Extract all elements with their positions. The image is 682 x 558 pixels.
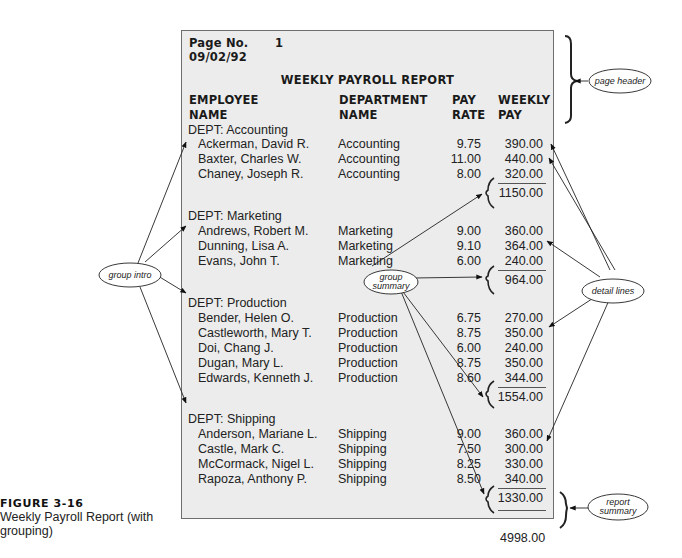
employee-name: Bender, Helen O. [198,311,294,325]
group-summary: 1150.00 [499,186,543,200]
figure-description: Weekly Payroll Report (with grouping) [0,510,175,538]
pay-rate: 6.75 [457,311,481,325]
col-pay-rate-1: PAY [452,93,476,107]
group-intro-row: DEPT: Shipping [182,412,553,427]
weekly-pay: 344.00 [505,371,543,385]
detail-row: Andrews, Robert M. Marketing 9.00 360.00 [182,224,553,239]
report-total: 4998.00 [500,531,545,545]
group-summary: 1330.00 [498,491,543,505]
department-name: Marketing [338,254,393,268]
department-name: Production [338,326,398,340]
employee-name: Castleworth, Mary T. [198,326,312,340]
employee-name: McCormack, Nigel L. [198,457,314,471]
pay-rate: 8.50 [457,472,481,486]
group-summary: 1554.00 [498,390,543,404]
group-intro-label: group intro [99,271,161,280]
weekly-pay: 440.00 [505,152,543,166]
employee-name: Ackerman, David R. [198,137,309,151]
page-header-brace [565,36,577,123]
pay-rate: 6.00 [457,254,481,268]
department-name: Production [338,356,398,370]
group-intro-row: DEPT: Marketing [182,209,553,224]
weekly-pay: 350.00 [505,356,543,370]
detail-row: Castleworth, Mary T. Production 8.75 350… [182,326,553,341]
department-name: Shipping [338,472,387,486]
group-intro: DEPT: Shipping [188,412,276,426]
weekly-pay: 340.00 [505,472,543,486]
group-intro: DEPT: Accounting [188,123,288,137]
summary-rule [498,183,546,184]
employee-name: Dunning, Lisa A. [198,239,289,253]
detail-row: Edwards, Kenneth J. Production 8.60 344.… [182,371,553,386]
pay-rate: 8.00 [457,167,481,181]
pay-rate: 6.00 [457,341,481,355]
page-number-label: Page No. [189,36,248,50]
summary-rule [498,387,546,388]
employee-name: Castle, Mark C. [198,442,284,456]
detail-row: Castle, Mark C. Shipping 7.50 300.00 [182,442,553,457]
col-department-name-2: NAME [339,108,378,122]
department-name: Production [338,341,398,355]
group-intro: DEPT: Marketing [188,209,282,223]
employee-name: Evans, John T. [198,254,280,268]
col-weekly-pay-2: PAY [498,108,522,122]
group-intro-row: DEPT: Production [182,296,553,311]
pay-rate: 11.00 [451,152,481,166]
group-summary: 964.00 [505,273,543,287]
weekly-pay: 240.00 [505,341,543,355]
department-name: Marketing [338,224,393,238]
col-weekly-pay-1: WEEKLY [498,93,550,107]
department-name: Shipping [338,457,387,471]
group-intro-row: DEPT: Accounting [182,123,553,138]
report-summary-label-2: summary [588,507,648,516]
figure-caption: FIGURE 3-16 Weekly Payroll Report (with … [0,497,175,538]
col-employee-name-2: NAME [189,108,228,122]
summary-rule [498,488,546,489]
weekly-pay: 270.00 [505,311,543,325]
weekly-pay: 350.00 [505,326,543,340]
report-summary-brace [560,492,567,528]
employee-name: Andrews, Robert M. [198,224,308,238]
employee-name: Baxter, Charles W. [198,152,302,166]
detail-row: Ackerman, David R. Accounting 9.75 390.0… [182,137,553,152]
detail-row: Doi, Chang J. Production 6.00 240.00 [182,341,553,356]
report-title: WEEKLY PAYROLL REPORT [182,73,553,87]
detail-row: Baxter, Charles W. Accounting 11.00 440.… [182,152,553,167]
detail-row: McCormack, Nigel L. Shipping 8.25 330.00 [182,457,553,472]
weekly-pay: 360.00 [505,224,543,238]
pay-rate: 9.10 [457,239,481,253]
employee-name: Chaney, Joseph R. [198,167,303,181]
department-name: Production [338,371,398,385]
figure-number: FIGURE 3-16 [0,497,175,510]
department-name: Accounting [338,152,400,166]
pay-rate: 8.25 [457,457,481,471]
department-name: Production [338,311,398,325]
detail-lines-label: detail lines [582,287,644,296]
pay-rate: 8.60 [457,371,481,385]
detail-row: Anderson, Mariane L. Shipping 9.00 360.0… [182,427,553,442]
group-intro: DEPT: Production [188,296,287,310]
weekly-pay: 320.00 [505,167,543,181]
weekly-pay: 330.00 [505,457,543,471]
detail-row: Chaney, Joseph R. Accounting 8.00 320.00 [182,167,553,182]
department-name: Accounting [338,167,400,181]
summary-rule [498,510,546,511]
employee-name: Edwards, Kenneth J. [198,371,313,385]
col-employee-name-1: EMPLOYEE [189,93,259,107]
detail-row: Bender, Helen O. Production 6.75 270.00 [182,311,553,326]
employee-name: Doi, Chang J. [198,341,274,355]
group-summary-label-2: summary [364,282,418,291]
detail-row: Dunning, Lisa A. Marketing 9.10 364.00 [182,239,553,254]
pay-rate: 7.50 [457,442,481,456]
weekly-pay: 390.00 [505,137,543,151]
summary-rule [498,270,546,271]
pay-rate: 9.00 [457,224,481,238]
employee-name: Rapoza, Anthony P. [198,472,307,486]
pay-rate: 8.75 [457,356,481,370]
page-number: 1 [275,36,283,50]
department-name: Shipping [338,427,387,441]
page-header-label: page header [589,77,651,86]
col-pay-rate-2: RATE [452,108,485,122]
weekly-pay: 364.00 [505,239,543,253]
department-name: Accounting [338,137,400,151]
